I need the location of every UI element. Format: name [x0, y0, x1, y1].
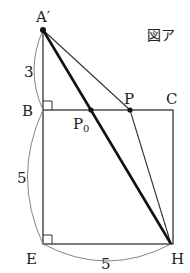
point-p	[127, 107, 132, 112]
length-label-b-e: 5	[17, 169, 27, 187]
square-bche	[43, 110, 173, 244]
label-a-prime: A′	[35, 8, 51, 26]
segment-a-prime-p	[43, 30, 130, 110]
arc-length-3	[34, 30, 43, 110]
figure-caption: 図ア	[147, 27, 175, 43]
point-a-prime	[40, 27, 46, 33]
geometry-diagram: A′ B C P P0 E H 3 5 5 図ア	[0, 0, 190, 273]
label-b: B	[22, 102, 33, 120]
right-angle-mark-b	[43, 101, 52, 110]
length-label-e-h: 5	[101, 255, 111, 273]
segment-p-h	[130, 110, 171, 244]
segment-a-prime-h	[43, 30, 171, 244]
right-angle-mark-e	[43, 235, 52, 244]
label-e: E	[26, 250, 37, 268]
label-h: H	[171, 250, 184, 268]
arc-length-5-vertical	[28, 110, 44, 244]
label-p0: P0	[73, 115, 89, 134]
label-p: P	[124, 90, 134, 108]
label-c: C	[166, 90, 177, 108]
point-p0	[88, 107, 93, 112]
length-label-a-prime-b: 3	[24, 63, 34, 81]
